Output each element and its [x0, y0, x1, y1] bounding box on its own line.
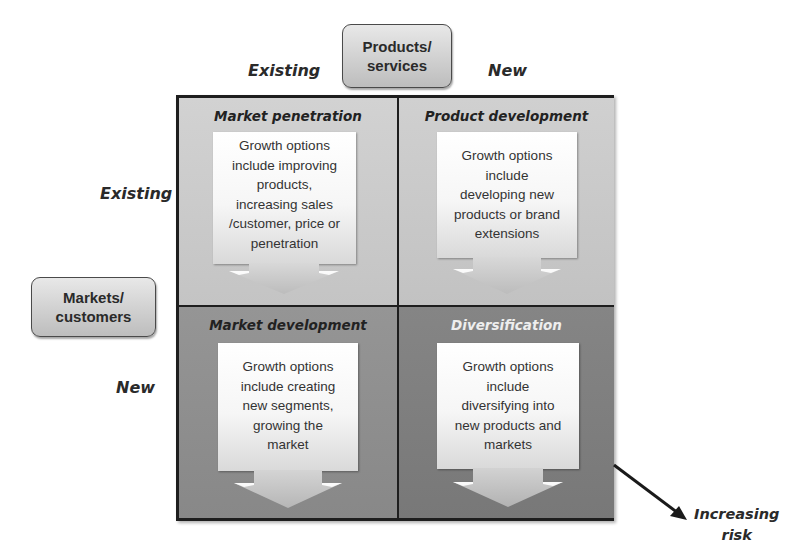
risk-label-line1: Increasing: [694, 504, 779, 525]
callout-line: market: [241, 435, 336, 455]
callout-text: Growth options include developing new pr…: [437, 132, 577, 258]
increasing-risk-arrow-icon: [600, 450, 700, 530]
down-arrow-icon: [218, 470, 358, 510]
callout-line: products or brand: [454, 205, 560, 225]
callout-line: new segments,: [241, 396, 336, 416]
callout-line: include: [455, 377, 562, 397]
down-arrow-icon: [437, 468, 579, 510]
callout-line: new products and: [455, 416, 562, 436]
callout-line: markets: [455, 435, 562, 455]
side-axis-existing-label: Existing: [100, 184, 172, 203]
grid-horizontal-divider: [179, 305, 611, 307]
callout-line: Growth options: [241, 357, 336, 377]
callout-arrow: Growth options include improving product…: [213, 132, 356, 297]
products-services-box: Products/ services: [342, 24, 452, 88]
top-axis-existing-label: Existing: [248, 61, 320, 80]
quadrant-market-development: Market development Growth options includ…: [179, 307, 397, 518]
markets-customers-box: Markets/ customers: [31, 277, 156, 337]
callout-line: Growth options: [454, 146, 560, 166]
callout-text: Growth options include improving product…: [213, 132, 356, 264]
callout-line: include improving: [229, 156, 340, 176]
quadrant-title: Market penetration: [179, 108, 397, 124]
callout-line: increasing sales: [229, 195, 340, 215]
callout-line: Growth options: [229, 136, 340, 156]
callout-text: Growth options include creating new segm…: [218, 343, 358, 471]
products-services-label: Products/ services: [352, 37, 442, 75]
side-axis-new-label: New: [116, 378, 155, 397]
quadrant-product-development: Product development Growth options inclu…: [399, 98, 614, 305]
callout-line: developing new: [454, 185, 560, 205]
callout-line: /customer, price or: [229, 214, 340, 234]
markets-customers-label: Markets/ customers: [49, 288, 139, 326]
grid-vertical-divider: [397, 98, 399, 518]
ansoff-matrix-grid: Market penetration Growth options includ…: [176, 95, 614, 521]
callout-line: products,: [229, 175, 340, 195]
increasing-risk-label: Increasing risk: [694, 504, 779, 546]
callout-line: penetration: [229, 234, 340, 254]
quadrant-title: Diversification: [399, 317, 614, 333]
callout-line: diversifying into: [455, 396, 562, 416]
callout-line: include: [454, 166, 560, 186]
down-arrow-icon: [213, 263, 356, 297]
top-axis-new-label: New: [488, 61, 527, 80]
risk-label-line2: risk: [694, 525, 779, 546]
callout-arrow: Growth options include creating new segm…: [218, 343, 358, 511]
quadrant-market-penetration: Market penetration Growth options includ…: [179, 98, 397, 305]
quadrant-diversification: Diversification Growth options include d…: [399, 307, 614, 518]
down-arrow-icon: [437, 257, 577, 297]
quadrant-title: Product development: [399, 108, 614, 124]
callout-line: Growth options: [455, 357, 562, 377]
callout-line: include creating: [241, 377, 336, 397]
callout-arrow: Growth options include diversifying into…: [437, 343, 579, 511]
callout-line: extensions: [454, 224, 560, 244]
quadrant-title: Market development: [179, 317, 397, 333]
callout-line: growing the: [241, 416, 336, 436]
callout-text: Growth options include diversifying into…: [437, 343, 579, 469]
callout-arrow: Growth options include developing new pr…: [437, 132, 577, 297]
